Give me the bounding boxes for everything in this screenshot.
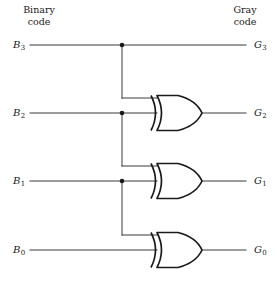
junction-b1-dot [120, 179, 125, 184]
output-label-g2-letter: G [254, 107, 262, 118]
output-label-g2-sub: 2 [262, 112, 266, 120]
circuit-schematic [0, 0, 280, 287]
input-label-b3-letter: B [13, 39, 20, 50]
input-label-b1-letter: B [13, 175, 20, 186]
binary-to-gray-code-converter-figure: Binary code Gray code [0, 0, 280, 287]
input-label-b2-sub: 2 [21, 112, 25, 120]
output-label-g1: G1 [254, 176, 266, 186]
input-label-b1-sub: 1 [21, 180, 25, 188]
xor-gate-1-body [157, 96, 202, 131]
output-label-g3-sub: 3 [262, 44, 266, 52]
xor-gate-3 [151, 233, 202, 268]
input-label-b3: B3 [13, 40, 25, 50]
output-label-g1-letter: G [254, 175, 262, 186]
output-label-g3: G3 [254, 40, 266, 50]
junction-b2-dot [120, 111, 125, 116]
xor-gate-2 [151, 164, 202, 199]
input-label-b3-sub: 3 [21, 44, 25, 52]
output-label-g1-sub: 1 [262, 180, 266, 188]
output-label-g0-sub: 0 [262, 249, 266, 257]
input-label-b2: B2 [13, 108, 25, 118]
output-label-g0: G0 [254, 245, 266, 255]
output-label-g2: G2 [254, 108, 266, 118]
junction-b3-dot [120, 43, 125, 48]
output-label-g3-letter: G [254, 39, 262, 50]
input-label-b0: B0 [13, 245, 25, 255]
input-label-b0-letter: B [13, 244, 20, 255]
xor-gate-3-body [157, 233, 202, 268]
input-label-b1: B1 [13, 176, 25, 186]
xor-gate-2-body [157, 164, 202, 199]
output-label-g0-letter: G [254, 244, 262, 255]
input-label-b0-sub: 0 [21, 249, 25, 257]
xor-gate-1 [151, 96, 202, 131]
input-label-b2-letter: B [13, 107, 20, 118]
